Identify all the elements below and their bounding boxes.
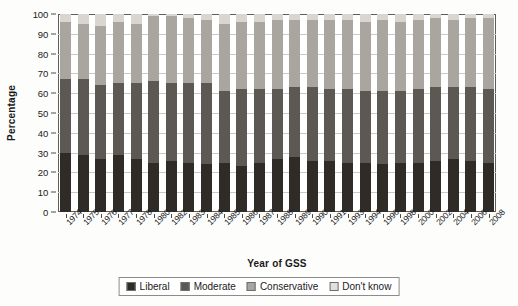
bar-segment-moderate (448, 87, 459, 158)
bar-segment-liberal (342, 163, 353, 213)
bar-1990[interactable] (307, 14, 318, 212)
bar-segment-conservative (448, 20, 459, 87)
bar-1975[interactable] (78, 14, 89, 212)
bar-segment-conservative (113, 22, 124, 83)
bar-segment-moderate (254, 89, 265, 162)
bar-segment-don-t-know (78, 14, 89, 24)
bar-1986[interactable] (236, 14, 247, 212)
bar-segment-conservative (289, 20, 300, 87)
bar-segment-don-t-know (95, 14, 106, 26)
bar-1985[interactable] (219, 14, 230, 212)
bar-segment-liberal (465, 161, 476, 212)
y-axis-ticks: 0102030405060708090100 (0, 14, 56, 212)
bar-segment-don-t-know (395, 14, 406, 22)
bar-segment-liberal (289, 157, 300, 212)
bar-1988[interactable] (272, 14, 283, 212)
bar-1989[interactable] (289, 14, 300, 212)
bar-segment-liberal (377, 164, 388, 212)
plot-area (58, 14, 496, 212)
bar-segment-conservative (342, 20, 353, 89)
y-tick-label: 80 (38, 48, 48, 59)
x-axis-ticks: 1974197519761977197819801982198319841985… (58, 214, 496, 256)
bar-1977[interactable] (113, 14, 124, 212)
y-tick-mark (51, 192, 56, 193)
bar-1982[interactable] (166, 14, 177, 212)
y-tick-mark (51, 113, 56, 114)
y-tick-label: 10 (38, 187, 48, 198)
bar-segment-liberal (448, 159, 459, 212)
bar-segment-conservative (78, 24, 89, 79)
bar-segment-liberal (113, 155, 124, 212)
bar-series-container (58, 14, 496, 212)
legend-item-conservative[interactable]: Conservative (247, 281, 318, 292)
bar-segment-liberal (430, 161, 441, 212)
bar-segment-liberal (131, 159, 142, 212)
legend-swatch-icon (181, 282, 190, 291)
bar-segment-moderate (360, 91, 371, 162)
bar-segment-don-t-know (60, 14, 71, 22)
y-tick-label: 30 (38, 147, 48, 158)
bar-segment-moderate (272, 89, 283, 158)
bar-1987[interactable] (254, 14, 265, 212)
bar-segment-liberal (254, 163, 265, 213)
bar-segment-moderate (219, 91, 230, 162)
legend-item-don-t-know[interactable]: Don't know (329, 281, 391, 292)
bar-segment-liberal (413, 163, 424, 213)
y-tick-label: 100 (33, 9, 48, 20)
legend-label: Conservative (260, 281, 318, 292)
bar-segment-moderate (377, 91, 388, 164)
legend-label: Don't know (342, 281, 391, 292)
bar-1998[interactable] (395, 14, 406, 212)
y-tick-mark (51, 93, 56, 94)
bar-segment-moderate (183, 83, 194, 162)
legend-swatch-icon (247, 282, 256, 291)
bar-segment-don-t-know (219, 14, 230, 24)
y-tick-label: 60 (38, 88, 48, 99)
bar-2006[interactable] (465, 14, 476, 212)
bar-segment-conservative (131, 24, 142, 83)
bar-segment-liberal (78, 155, 89, 212)
bar-2004[interactable] (448, 14, 459, 212)
bar-1980[interactable] (148, 14, 159, 212)
bar-2000[interactable] (413, 14, 424, 212)
bar-1978[interactable] (131, 14, 142, 212)
bar-segment-don-t-know (254, 14, 265, 22)
bar-segment-conservative (95, 26, 106, 85)
bar-1996[interactable] (377, 14, 388, 212)
bar-1976[interactable] (95, 14, 106, 212)
bar-segment-liberal (148, 163, 159, 213)
bar-1984[interactable] (201, 14, 212, 212)
bar-segment-conservative (413, 20, 424, 89)
bar-segment-conservative (377, 20, 388, 91)
bar-2002[interactable] (430, 14, 441, 212)
bar-segment-liberal (324, 161, 335, 212)
bar-segment-moderate (483, 89, 494, 162)
y-tick-mark (51, 73, 56, 74)
bar-1974[interactable] (60, 14, 71, 212)
bar-segment-don-t-know (131, 14, 142, 24)
bar-segment-liberal (272, 159, 283, 212)
bar-2008[interactable] (483, 14, 494, 212)
bar-segment-don-t-know (236, 14, 247, 22)
bar-segment-moderate (131, 83, 142, 158)
bar-segment-moderate (395, 91, 406, 162)
bar-1991[interactable] (324, 14, 335, 212)
legend-item-liberal[interactable]: Liberal (127, 281, 170, 292)
bar-segment-moderate (465, 87, 476, 160)
bar-segment-liberal (360, 163, 371, 213)
bar-segment-conservative (219, 24, 230, 91)
bar-segment-conservative (483, 18, 494, 89)
bar-segment-conservative (60, 22, 71, 79)
bar-segment-conservative (254, 22, 265, 89)
y-tick-mark (51, 33, 56, 34)
bar-1983[interactable] (183, 14, 194, 212)
bar-segment-conservative (183, 18, 194, 83)
bar-1993[interactable] (342, 14, 353, 212)
legend-item-moderate[interactable]: Moderate (181, 281, 236, 292)
bar-1994[interactable] (360, 14, 371, 212)
bar-segment-liberal (60, 153, 71, 212)
bar-segment-moderate (324, 89, 335, 160)
y-tick-label: 40 (38, 127, 48, 138)
bar-segment-don-t-know (360, 14, 371, 22)
bar-segment-liberal (236, 166, 247, 212)
